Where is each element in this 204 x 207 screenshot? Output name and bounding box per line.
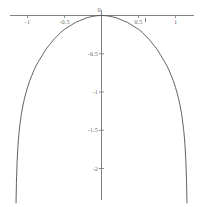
x-tick-label-3: 0.5: [134, 19, 142, 25]
y-tick-label-2: -1.5: [88, 127, 98, 133]
plot-figure: -1-0.500.51 -0.5-1-1.5-2: [0, 0, 204, 207]
y-tick-label-1: -1: [93, 89, 98, 95]
x-tick-label-0: -1: [25, 19, 30, 25]
x-tick-label-1: -0.5: [59, 19, 69, 25]
x-tick-label-4: 1: [174, 19, 177, 25]
x-tick-label-2: 0: [97, 7, 100, 13]
axes-group: [10, 10, 194, 200]
y-tick-label-0: -0.5: [88, 51, 98, 57]
plot-canvas: [0, 0, 204, 207]
y-tick-label-3: -2: [93, 165, 98, 171]
